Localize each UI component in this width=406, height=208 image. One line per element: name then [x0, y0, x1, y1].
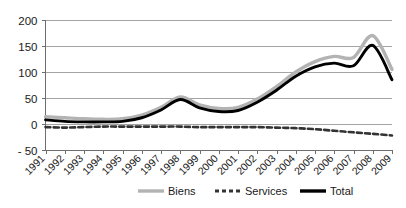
- x-axis-tick-label: 2006: [311, 152, 336, 177]
- series-line-services: [46, 127, 393, 136]
- x-axis-tick-label: 2004: [272, 152, 297, 177]
- legend-group: BiensServicesTotal: [138, 185, 353, 197]
- x-axis-tick-label: 2008: [349, 152, 374, 177]
- line-chart-figure: - 50050100150200 19911992199319941995199…: [0, 0, 406, 208]
- legend-label-services: Services: [245, 185, 288, 197]
- y-axis-ticks-group: [42, 21, 46, 151]
- y-axis-labels-group: - 50050100150200: [18, 15, 38, 157]
- chart-canvas: - 50050100150200 19911992199319941995199…: [0, 0, 406, 208]
- x-axis-tick-label: 1999: [176, 152, 201, 177]
- data-series-group: [46, 35, 393, 135]
- legend-label-biens: Biens: [168, 185, 196, 197]
- x-axis-tick-label: 2000: [195, 152, 220, 177]
- legend-label-total: Total: [330, 185, 353, 197]
- x-axis-tick-label: 2001: [214, 152, 239, 177]
- x-axis-tick-label: 1996: [118, 152, 143, 177]
- y-axis-tick-label: 200: [18, 15, 37, 27]
- series-line-biens: [46, 35, 393, 119]
- x-axis-tick-label: 2003: [253, 152, 278, 177]
- x-axis-tick-label: 2005: [291, 152, 316, 177]
- x-axis-tick-label: 1994: [80, 152, 105, 177]
- x-axis-labels-group: 1991199219931994199519961997199819992000…: [22, 152, 394, 177]
- x-axis-tick-label: 1993: [60, 152, 85, 177]
- y-axis-tick-label: 50: [25, 93, 38, 105]
- x-axis-tick-label: 1997: [137, 152, 162, 177]
- x-axis-tick-label: 2002: [234, 152, 259, 177]
- x-axis-tick-label: 1998: [157, 152, 182, 177]
- y-axis-tick-label: 0: [31, 119, 37, 131]
- y-axis-tick-label: 100: [18, 67, 37, 79]
- x-axis-tick-label: 2009: [368, 152, 393, 177]
- x-axis-tick-label: 1995: [99, 152, 124, 177]
- x-axis-tick-label: 2007: [330, 152, 355, 177]
- y-axis-tick-label: 150: [18, 41, 37, 53]
- x-axis-tick-label: 1992: [41, 152, 66, 177]
